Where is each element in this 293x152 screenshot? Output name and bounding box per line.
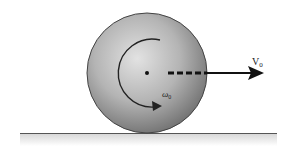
ground-shadow: [20, 134, 277, 146]
velocity-label: V0: [252, 56, 263, 69]
rolling-ball-diagram: V0 ω0: [0, 0, 293, 152]
ball-center-dot: [145, 71, 149, 75]
